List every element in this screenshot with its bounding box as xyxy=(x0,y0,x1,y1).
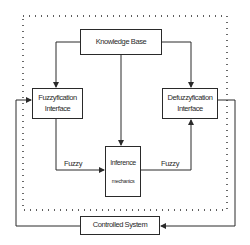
edge-kb-to-defuzzyfication xyxy=(162,42,191,87)
edge-kb-to-fuzzyfication xyxy=(56,42,80,87)
knowledge-base-label: Knowledge Base xyxy=(96,37,147,47)
inference-label-line2: mechanics xyxy=(112,178,135,185)
controlled-system-label: Controlled System xyxy=(93,220,147,230)
fuzzyfication-interface-box: Fuzzyfication Interface xyxy=(32,88,83,119)
defuzzyfication-label-line2: Interface xyxy=(177,104,203,114)
inference-label-line1: Inference xyxy=(110,158,136,167)
edge-label-fuzzy-right: Fuzzy xyxy=(161,159,179,168)
controlled-system-box: Controlled System xyxy=(80,216,160,235)
defuzzyfication-label-line1: Defuzzyfication xyxy=(168,93,213,103)
defuzzyfication-interface-box: Defuzzyfication Interface xyxy=(162,88,218,119)
edge-label-fuzzy-left: Fuzzy xyxy=(64,159,82,168)
knowledge-base-box: Knowledge Base xyxy=(80,29,162,55)
fuzzyfication-label-line2: Interface xyxy=(45,104,71,114)
inference-mechanics-box: Inference mechanics xyxy=(105,146,141,197)
fuzzyfication-label-line1: Fuzzyfication xyxy=(38,93,77,103)
